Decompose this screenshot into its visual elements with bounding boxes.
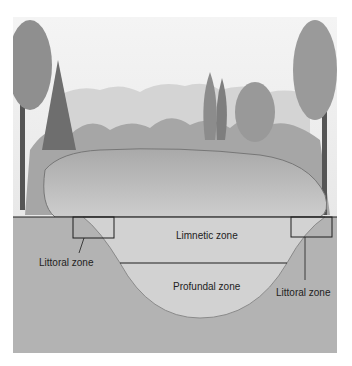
label-profundal: Profundal zone — [173, 281, 241, 292]
left-tree-canopy — [8, 20, 52, 110]
round-tree — [235, 82, 275, 142]
label-littoral-right: Littoral zone — [276, 287, 331, 298]
label-limnetic: Limnetic zone — [176, 230, 238, 241]
right-tree-canopy — [293, 20, 337, 120]
label-littoral-left: Littoral zone — [39, 257, 94, 268]
lake-zones-diagram: Limnetic zone Profundal zone Littoral zo… — [0, 0, 352, 366]
